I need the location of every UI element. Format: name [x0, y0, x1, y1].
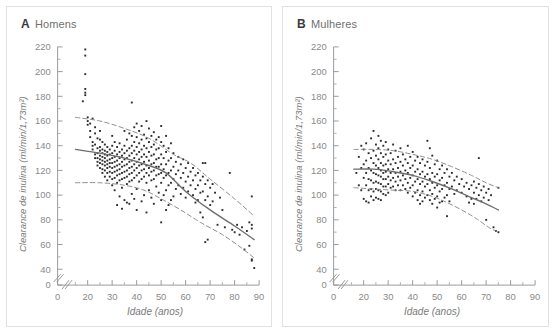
svg-text:90: 90 — [530, 291, 540, 302]
panel-a-plot-area: 0406080100120140160180200220020304050607… — [7, 7, 271, 326]
panel-b-mulheres: B Mulheres 04060801001201401601802002200… — [282, 6, 549, 327]
svg-text:100: 100 — [35, 189, 51, 200]
svg-text:80: 80 — [40, 214, 50, 225]
svg-text:0: 0 — [45, 279, 50, 290]
svg-text:60: 60 — [456, 291, 466, 302]
svg-text:40: 40 — [131, 291, 141, 302]
svg-text:0: 0 — [321, 279, 326, 290]
svg-text:160: 160 — [311, 115, 327, 126]
svg-text:70: 70 — [205, 291, 215, 302]
svg-text:60: 60 — [316, 239, 326, 250]
svg-text:160: 160 — [35, 115, 51, 126]
svg-text:0: 0 — [331, 291, 336, 302]
svg-text:80: 80 — [229, 291, 239, 302]
svg-text:140: 140 — [35, 140, 51, 151]
panel-b-ylabel: Clearance de inulina (ml/min/1,73m²) — [293, 96, 304, 252]
svg-text:90: 90 — [254, 291, 264, 302]
svg-text:60: 60 — [180, 291, 190, 302]
svg-text:20: 20 — [82, 291, 92, 302]
svg-text:40: 40 — [316, 264, 326, 275]
svg-text:60: 60 — [40, 239, 50, 250]
svg-text:220: 220 — [311, 41, 327, 52]
svg-text:30: 30 — [383, 291, 393, 302]
svg-text:50: 50 — [156, 291, 166, 302]
panel-a-homens: A Homens 0406080100120140160180200220020… — [6, 6, 272, 327]
svg-text:120: 120 — [311, 165, 327, 176]
svg-text:40: 40 — [40, 264, 50, 275]
svg-text:140: 140 — [311, 140, 327, 151]
svg-text:220: 220 — [35, 41, 51, 52]
panel-b-plot-area: 0406080100120140160180200220020304050607… — [283, 7, 548, 326]
svg-text:120: 120 — [35, 165, 51, 176]
svg-text:0: 0 — [55, 291, 60, 302]
figure-root: A Homens 0406080100120140160180200220020… — [0, 0, 555, 333]
svg-text:80: 80 — [316, 214, 326, 225]
svg-text:100: 100 — [311, 189, 327, 200]
svg-text:180: 180 — [35, 91, 51, 102]
svg-text:200: 200 — [35, 66, 51, 77]
panel-a-xlabel: Idade (anos) — [95, 306, 215, 317]
svg-text:50: 50 — [432, 291, 442, 302]
svg-text:40: 40 — [407, 291, 417, 302]
svg-text:180: 180 — [311, 91, 327, 102]
svg-text:20: 20 — [358, 291, 368, 302]
svg-text:70: 70 — [481, 291, 491, 302]
svg-text:80: 80 — [505, 291, 515, 302]
svg-text:200: 200 — [311, 66, 327, 77]
panel-b-xlabel: Idade (anos) — [372, 306, 492, 317]
svg-text:30: 30 — [107, 291, 117, 302]
panel-a-ylabel: Clearance de inulina (ml/min/1,73m²) — [17, 96, 28, 252]
